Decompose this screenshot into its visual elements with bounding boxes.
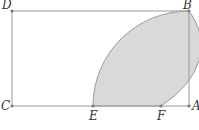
- label-e: E: [88, 109, 98, 123]
- point-a: [187, 104, 190, 107]
- label-b: B: [182, 0, 192, 12]
- label-f: F: [156, 109, 166, 123]
- label-d: D: [1, 0, 12, 12]
- geometry-diagram: D B C A E F: [0, 0, 199, 130]
- point-f: [159, 104, 162, 107]
- shaded-region: [93, 11, 199, 106]
- point-c: [10, 104, 13, 107]
- label-a: A: [191, 99, 199, 113]
- point-e: [91, 104, 94, 107]
- label-c: C: [1, 99, 10, 113]
